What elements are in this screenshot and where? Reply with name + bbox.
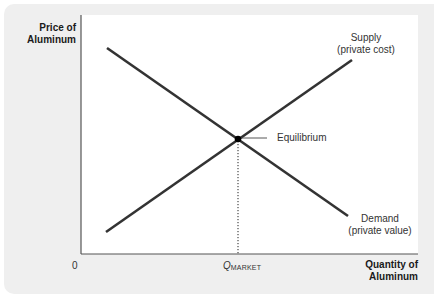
x-axis-label-line2: Aluminum (340, 271, 418, 283)
x-axis-label: Quantity of Aluminum (340, 259, 418, 283)
supply-label: Supply (private cost) (326, 32, 406, 56)
equilibrium-label-text: Equilibrium (277, 132, 326, 143)
origin-label-text: 0 (72, 260, 78, 271)
origin-label: 0 (72, 260, 78, 272)
supply-label-line2: (private cost) (326, 44, 406, 56)
x-axis-label-line1: Quantity of (340, 259, 418, 271)
demand-label-line2: (private value) (342, 225, 418, 237)
demand-label-line1: Demand (342, 213, 418, 225)
equilibrium-point (235, 136, 242, 143)
demand-label: Demand (private value) (342, 213, 418, 237)
y-axis-label-line1: Price of (10, 22, 76, 34)
y-axis-label: Price of Aluminum (10, 22, 76, 46)
q-market-subscript: MARKET (231, 264, 261, 271)
supply-label-line1: Supply (326, 32, 406, 44)
y-axis-label-line2: Aluminum (10, 34, 76, 46)
q-market-main: Q (223, 260, 231, 271)
equilibrium-label: Equilibrium (277, 132, 326, 144)
q-market-tick-label: QMARKET (223, 260, 261, 273)
supply-curve (106, 60, 352, 232)
